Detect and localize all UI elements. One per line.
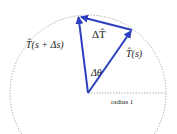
label-radius: radius 1 [111, 98, 134, 106]
vector-T-s [88, 31, 131, 93]
label-T-s: T̂(s) [126, 47, 143, 60]
vector-T-s-plus-ds [79, 17, 89, 93]
label-delta-theta: Δθ [90, 67, 102, 78]
label-T-s-plus-ds: T̂(s + Δs) [26, 38, 64, 51]
unit-circle-diagram: ΔT̂ T̂(s + Δs) T̂(s) Δθ radius 1 [0, 0, 177, 134]
unit-circle [10, 15, 166, 134]
label-delta-T: ΔT̂ [92, 28, 106, 40]
vector-delta-T [81, 17, 132, 30]
